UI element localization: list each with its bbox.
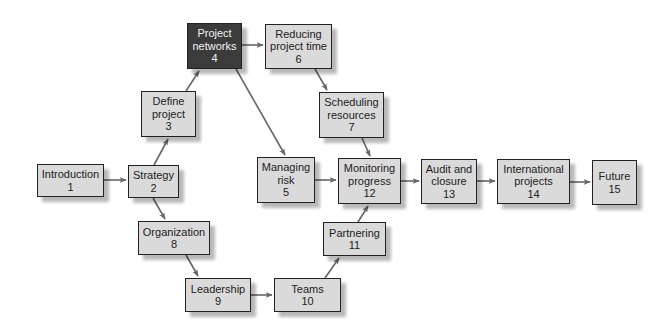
node-label: Introduction [42, 168, 99, 181]
node-9[interactable]: Leadership9 [185, 278, 251, 312]
flowchart-canvas: Introduction1Strategy2Define project3Pro… [0, 0, 672, 333]
node-number: 3 [165, 120, 171, 133]
node-2[interactable]: Strategy2 [128, 165, 179, 198]
node-number: 13 [443, 188, 455, 201]
arrow-2-to-3 [154, 139, 168, 165]
node-number: 8 [171, 238, 177, 251]
node-1[interactable]: Introduction1 [37, 164, 104, 197]
arrow-6-to-7 [315, 69, 327, 90]
arrow-11-to-12 [358, 206, 368, 222]
arrow-3-to-4 [186, 71, 199, 91]
arrow-8-to-9 [186, 255, 198, 276]
node-label: Reducing project time [270, 28, 327, 53]
arrow-10-to-11 [325, 258, 339, 278]
node-number: 12 [363, 187, 375, 200]
node-label: Project networks [192, 27, 236, 52]
node-3[interactable]: Define project3 [141, 91, 196, 137]
node-label: Define project [152, 95, 185, 120]
node-10[interactable]: Teams10 [274, 278, 341, 312]
node-12[interactable]: Monitoring progress12 [338, 158, 401, 204]
node-6[interactable]: Reducing project time6 [265, 24, 332, 69]
node-number: 10 [301, 295, 313, 308]
node-label: Organization [143, 226, 205, 239]
node-label: Managing risk [262, 161, 310, 186]
node-8[interactable]: Organization8 [138, 221, 210, 255]
node-15[interactable]: Future15 [592, 160, 637, 205]
node-14[interactable]: International projects14 [497, 159, 570, 204]
node-label: International projects [503, 163, 564, 188]
arrow-2-to-8 [153, 198, 165, 219]
node-number: 7 [348, 121, 354, 134]
node-label: Partnering [329, 227, 380, 240]
node-number: 6 [295, 53, 301, 66]
node-number: 15 [608, 183, 620, 196]
node-13[interactable]: Audit and closure13 [421, 159, 477, 204]
node-11[interactable]: Partnering11 [323, 222, 386, 256]
node-number: 1 [67, 181, 73, 194]
node-label: Leadership [191, 283, 245, 296]
node-label: Strategy [133, 169, 174, 182]
node-label: Monitoring progress [344, 162, 395, 187]
node-label: Audit and closure [426, 163, 472, 188]
node-number: 5 [283, 186, 289, 199]
node-number: 4 [211, 52, 217, 65]
arrow-7-to-12 [362, 138, 370, 156]
node-number: 2 [150, 182, 156, 195]
node-number: 9 [215, 295, 221, 308]
arrow-4-to-5 [236, 69, 285, 155]
node-label: Future [599, 170, 631, 183]
node-4[interactable]: Project networks4 [187, 23, 242, 69]
node-7[interactable]: Scheduling resources7 [319, 92, 384, 138]
node-number: 14 [527, 188, 539, 201]
node-label: Scheduling resources [324, 96, 378, 121]
node-5[interactable]: Managing risk5 [257, 157, 315, 203]
node-label: Teams [291, 283, 323, 296]
node-number: 11 [349, 239, 360, 252]
